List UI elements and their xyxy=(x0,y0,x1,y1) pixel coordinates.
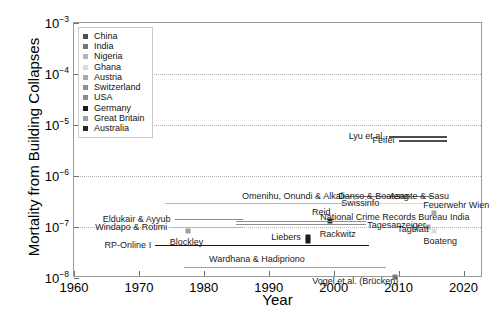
legend-item-label: Germany xyxy=(94,104,131,113)
y-axis-title: Mortality from Building Collapses xyxy=(26,12,42,282)
data-label-feuerwehr-wien: Feuerwehr Wien xyxy=(423,201,489,210)
legend-item-label: Switzerland xyxy=(94,83,141,92)
legend-item-label: Nigeria xyxy=(94,52,123,61)
data-label-omenihu-onundi-alkali: Omenihu, Onundi & Alkali xyxy=(242,192,345,201)
span-line-lyu-et-al xyxy=(389,136,447,138)
legend-swatch-icon xyxy=(83,75,88,80)
legend-item-ghana[interactable]: Ghana xyxy=(83,62,145,72)
y-tick-mark xyxy=(74,278,79,279)
y-tick-mark xyxy=(74,176,79,177)
legend: ChinaIndiaNigeriaGhanaAustriaSwitzerland… xyxy=(78,27,153,138)
y-tick-label: 10−3 xyxy=(45,16,69,31)
legend-swatch-icon xyxy=(83,116,88,121)
x-tick-mark xyxy=(464,271,465,276)
x-tick-mark xyxy=(269,271,270,276)
data-label-boateng: Boateng xyxy=(424,237,458,246)
legend-item-nigeria[interactable]: Nigeria xyxy=(83,52,145,62)
legend-swatch-icon xyxy=(83,54,88,59)
data-label-feifei: Feifei xyxy=(373,136,395,145)
span-line-windapo-rotimi xyxy=(171,227,242,228)
data-label-tagblatt: Tagblatt xyxy=(397,225,429,234)
x-tick-mark xyxy=(399,271,400,276)
y-tick-mark xyxy=(74,23,79,24)
x-tick-label: 1990 xyxy=(254,280,283,295)
legend-item-label: Australia xyxy=(94,124,129,133)
data-label-liebers: Liebers xyxy=(271,233,301,242)
span-line-rp-online-i xyxy=(155,245,369,246)
x-tick-mark xyxy=(139,271,140,276)
data-point-feuerwehr-wien xyxy=(432,211,437,216)
data-point-blockley xyxy=(185,228,190,233)
legend-item-australia[interactable]: Australia xyxy=(83,124,145,134)
data-label-wardhana-hadipriono: Wardhana & Hadipriono xyxy=(209,254,305,263)
gridline xyxy=(74,176,481,177)
x-tick-label: 2020 xyxy=(449,280,478,295)
legend-item-label: Ghana xyxy=(94,63,121,72)
legend-item-austria[interactable]: Austria xyxy=(83,72,145,82)
legend-item-usa[interactable]: USA xyxy=(83,93,145,103)
x-tick-mark xyxy=(74,271,75,276)
data-label-reid: Reid xyxy=(312,208,331,217)
data-label-swissinfo: Swissinfo xyxy=(341,199,379,208)
data-label-rackwitz: Rackwitz xyxy=(320,230,356,239)
span-line-feifei xyxy=(399,140,448,142)
y-tick-mark xyxy=(74,227,79,228)
y-tick-label: 10−6 xyxy=(45,169,69,184)
span-line-eldukair-ayyub xyxy=(175,219,243,220)
x-tick-mark xyxy=(204,271,205,276)
legend-item-china[interactable]: China xyxy=(83,31,145,41)
legend-item-great-britain[interactable]: Great Britain xyxy=(83,113,145,123)
legend-item-label: India xyxy=(94,42,114,51)
y-tick-label: 10−4 xyxy=(45,67,69,82)
legend-item-label: Austria xyxy=(94,73,122,82)
x-tick-label: 1970 xyxy=(124,280,153,295)
span-line-swissinfo xyxy=(236,221,366,222)
legend-item-switzerland[interactable]: Switzerland xyxy=(83,82,145,92)
legend-swatch-icon xyxy=(83,65,88,70)
legend-item-label: USA xyxy=(94,93,113,102)
legend-swatch-icon xyxy=(83,85,88,90)
y-tick-label: 10−7 xyxy=(45,220,69,235)
legend-swatch-icon xyxy=(83,106,88,111)
data-label-windapo-rotimi: Windapo & Rotimi xyxy=(95,223,167,232)
data-point-boateng xyxy=(432,229,437,234)
data-label-rp-online-i: RP-Online I xyxy=(105,240,152,249)
legend-item-label: China xyxy=(94,32,118,41)
legend-swatch-icon xyxy=(83,126,88,131)
legend-swatch-icon xyxy=(83,95,88,100)
span-line-wardhana-hadipriono xyxy=(184,267,385,268)
legend-item-germany[interactable]: Germany xyxy=(83,103,145,113)
x-tick-label: 1980 xyxy=(189,280,218,295)
legend-item-label: Great Britain xyxy=(94,114,145,123)
plot-area: 10−310−410−510−610−710−8 196019701980199… xyxy=(73,22,482,277)
legend-swatch-icon xyxy=(83,44,88,49)
data-label-vogel-et-al-br-cken: Vogel et al. (Brücken) xyxy=(312,276,398,285)
figure-root: Mortality from Building Collapses Year 1… xyxy=(0,0,498,320)
span-line-tagesanzeiger xyxy=(236,224,366,225)
x-tick-label: 1960 xyxy=(60,280,89,295)
y-tick-label: 10−5 xyxy=(45,118,69,133)
legend-item-india[interactable]: India xyxy=(83,41,145,51)
legend-swatch-icon xyxy=(83,34,88,39)
data-point-rackwitz xyxy=(305,239,310,244)
